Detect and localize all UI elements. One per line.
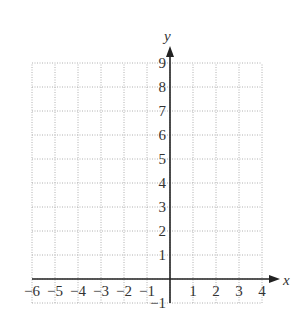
coordinate-plane: x y −6−5−4−3−2−11234 −1123456789 [0, 0, 306, 328]
x-axis-label: x [282, 272, 290, 288]
x-tick-label: −2 [116, 283, 132, 299]
y-tick-label: −1 [150, 295, 166, 311]
y-tick-label: 6 [159, 127, 167, 143]
y-tick-label: 3 [159, 199, 167, 215]
y-tick-label: 8 [159, 79, 167, 95]
y-tick-label: 4 [159, 175, 167, 191]
x-tick-label: 3 [235, 283, 243, 299]
x-tick-label: −5 [47, 283, 63, 299]
y-tick-label: 1 [159, 247, 167, 263]
y-tick-label: 5 [159, 151, 167, 167]
x-tick-label: −6 [24, 283, 40, 299]
y-axis-arrow-icon [166, 46, 174, 57]
x-tick-label: 2 [212, 283, 220, 299]
x-tick-label: −3 [93, 283, 109, 299]
x-tick-label: 4 [258, 283, 266, 299]
x-tick-label: 1 [189, 283, 197, 299]
y-axis-label: y [162, 28, 171, 44]
x-tick-label: −4 [70, 283, 86, 299]
x-tick-labels: −6−5−4−3−2−11234 [24, 283, 266, 299]
x-axis-arrow-icon [269, 275, 280, 283]
y-tick-label: 2 [159, 223, 167, 239]
grid-lines [32, 63, 262, 303]
y-tick-label: 7 [159, 103, 167, 119]
y-tick-label: 9 [159, 55, 167, 71]
